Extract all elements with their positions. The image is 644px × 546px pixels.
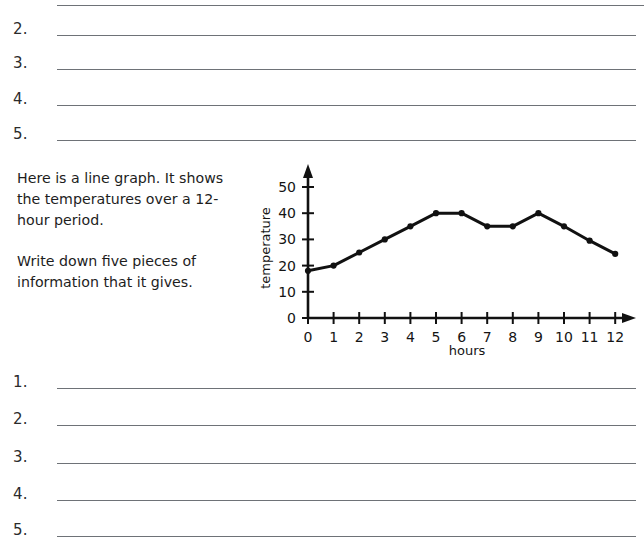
x-axis-title: hours: [449, 343, 486, 358]
data-point: [510, 223, 516, 229]
answer-number: 2.: [13, 408, 28, 430]
data-point: [433, 210, 439, 216]
x-tick-label: 11: [581, 329, 599, 345]
answer-row: 3.: [0, 446, 644, 468]
data-point: [382, 236, 388, 242]
x-tick-label: 12: [606, 329, 624, 345]
question-paragraph-2: Write down five pieces of information th…: [17, 251, 243, 293]
answer-number: 4.: [13, 88, 28, 110]
x-tick-label: 5: [432, 329, 441, 345]
answer-row: 1.: [0, 371, 644, 393]
data-point: [535, 210, 541, 216]
data-point: [561, 223, 567, 229]
data-point: [331, 263, 337, 269]
answer-rule[interactable]: [57, 536, 636, 537]
answer-row: 4.: [0, 483, 644, 505]
y-axis-title: temperature: [258, 207, 273, 289]
x-axis: [308, 313, 636, 323]
y-tick-label: 30: [278, 231, 296, 247]
data-point-group: [305, 210, 618, 274]
y-tick-label: 10: [278, 284, 296, 300]
temperature-line-chart: 01020304050 0123456789101112 hours tempe…: [248, 158, 644, 363]
y-tick-label: 40: [278, 205, 296, 221]
x-tick-label: 8: [508, 329, 517, 345]
answer-rule[interactable]: [57, 105, 636, 106]
x-tick-label: 0: [304, 329, 313, 345]
data-point: [587, 238, 593, 244]
answer-row-partial: [0, 0, 644, 10]
answer-row: 5.: [0, 123, 644, 145]
answer-number: 1.: [13, 371, 28, 393]
data-point: [356, 249, 362, 255]
answer-number: 5.: [13, 519, 28, 541]
data-point: [407, 223, 413, 229]
data-point: [459, 210, 465, 216]
x-tick-label: 1: [329, 329, 338, 345]
answer-rule[interactable]: [57, 425, 636, 426]
answer-rule[interactable]: [57, 500, 636, 501]
answer-number: 3.: [13, 446, 28, 468]
answer-rule[interactable]: [57, 388, 636, 389]
answer-row: 2.: [0, 18, 644, 40]
x-tick-label: 3: [380, 329, 389, 345]
answer-rule[interactable]: [57, 5, 644, 6]
x-tick-label: 4: [406, 329, 415, 345]
answer-number: 2.: [13, 18, 28, 40]
answer-row: 2.: [0, 408, 644, 430]
answer-rule[interactable]: [57, 140, 636, 141]
data-point: [484, 223, 490, 229]
question-paragraph-1: Here is a line graph. It shows the tempe…: [17, 168, 243, 231]
chart-svg: 01020304050 0123456789101112 hours tempe…: [248, 158, 644, 363]
data-line: [308, 213, 615, 271]
x-tick-label: 9: [534, 329, 543, 345]
answer-row: 3.: [0, 52, 644, 74]
answer-number: 5.: [13, 123, 28, 145]
x-axis-arrowhead: [622, 313, 636, 323]
data-point: [612, 251, 618, 257]
x-tick-label: 2: [355, 329, 364, 345]
data-line-group: [308, 213, 615, 271]
answer-row: 4.: [0, 88, 644, 110]
y-axis-arrowhead: [303, 164, 313, 178]
answer-row: 5.: [0, 519, 644, 541]
y-tick-label: 0: [287, 310, 296, 326]
question-text: Here is a line graph. It shows the tempe…: [17, 168, 243, 293]
y-tick-label: 50: [278, 179, 296, 195]
answer-number: 4.: [13, 483, 28, 505]
answer-number: 3.: [13, 52, 28, 74]
answer-rule[interactable]: [57, 35, 636, 36]
answer-rule[interactable]: [57, 463, 636, 464]
x-tick-label: 10: [555, 329, 573, 345]
answer-rule[interactable]: [57, 69, 636, 70]
y-tick-label: 20: [278, 258, 296, 274]
data-point: [305, 268, 311, 274]
